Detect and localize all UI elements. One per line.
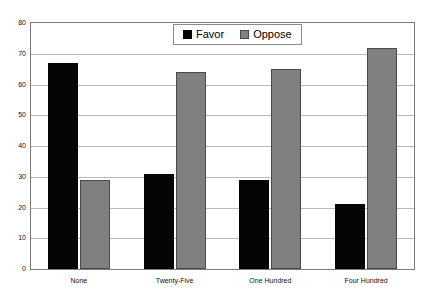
bar-favor-four-hundred	[335, 204, 365, 269]
legend-swatch-icon	[240, 30, 249, 39]
bar-oppose-none	[80, 180, 110, 269]
bar-oppose-one-hundred	[271, 69, 301, 269]
bars-layer	[31, 23, 414, 269]
y-axis-tick-label: 40	[0, 142, 26, 149]
legend-label: Favor	[196, 28, 224, 40]
y-axis-tick-label: 50	[0, 111, 26, 118]
legend-swatch-icon	[183, 30, 192, 39]
y-axis-tick-label: 80	[0, 19, 26, 26]
legend-entry-oppose: Oppose	[240, 28, 292, 40]
bar-favor-none	[48, 63, 78, 269]
y-axis-tick-label: 60	[0, 81, 26, 88]
y-axis-tick-label: 20	[0, 204, 26, 211]
x-axis-tick-label: Four Hundred	[345, 277, 388, 285]
bar-chart: 01020304050607080 FavorOppose NoneTwenty…	[0, 0, 429, 308]
bar-group	[127, 23, 223, 269]
bar-group	[318, 23, 414, 269]
bar-oppose-twenty-five	[176, 72, 206, 269]
y-axis-tick-label: 30	[0, 173, 26, 180]
x-axis: NoneTwenty-FiveOne HundredFour Hundred	[31, 277, 414, 291]
y-axis-tick-label: 10	[0, 234, 26, 241]
x-axis-tick-label: Twenty-Five	[156, 277, 194, 285]
bar-group	[223, 23, 319, 269]
bar-oppose-four-hundred	[367, 48, 397, 269]
bar-group	[31, 23, 127, 269]
chart-legend: FavorOppose	[173, 24, 302, 45]
y-axis-tick-label: 70	[0, 50, 26, 57]
legend-entry-favor: Favor	[183, 28, 224, 40]
bar-favor-twenty-five	[144, 174, 174, 269]
y-axis-tick-label: 0	[0, 265, 26, 272]
x-axis-tick-label: One Hundred	[249, 277, 291, 285]
legend-label: Oppose	[253, 28, 292, 40]
bar-favor-one-hundred	[239, 180, 269, 269]
x-axis-tick-label: None	[71, 277, 88, 285]
